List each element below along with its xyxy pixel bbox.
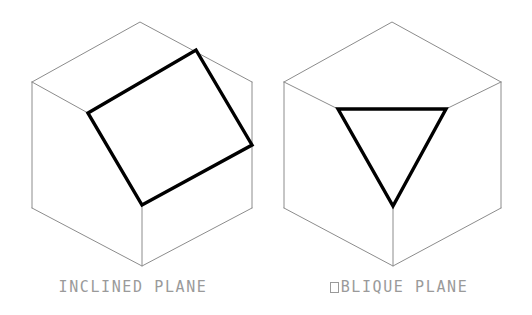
caption-oblique-plane: BLIQUE PLANE: [266, 278, 532, 296]
missing-glyph-box-icon: [330, 282, 339, 293]
caption-inclined-plane: INCLINED PLANE: [0, 278, 266, 296]
caption-oblique-plane-text: BLIQUE PLANE: [341, 278, 469, 296]
isometric-drawing-canvas: [0, 0, 532, 315]
technical-drawing-board: INCLINED PLANE BLIQUE PLANE: [0, 0, 532, 315]
figure-inclined-plane: [32, 22, 252, 266]
figure-oblique-plane: [284, 22, 501, 266]
